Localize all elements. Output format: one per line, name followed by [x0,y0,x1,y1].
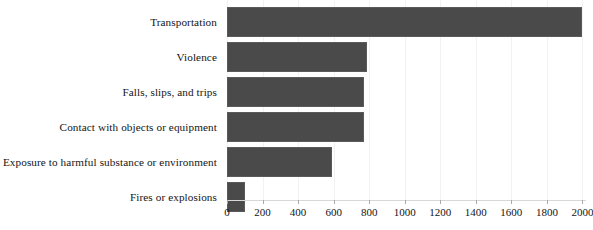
x-axis-tick-label: 2000 [571,206,593,219]
x-axis: 0200400600800100012001400160018002000 [227,200,586,230]
bar [227,112,364,142]
x-axis-tick-label: 1800 [536,206,558,219]
x-axis-tick-label: 0 [224,206,230,219]
x-axis-tick [440,200,441,204]
bar [227,7,582,37]
x-axis-tick [405,200,406,204]
x-axis-tick-label: 400 [290,206,307,219]
category-label: Contact with objects or equipment [60,121,217,133]
x-axis-line [227,200,586,201]
category-label: Violence [176,51,217,63]
x-axis-tick [547,200,548,204]
x-axis-tick [476,200,477,204]
bar [227,77,364,107]
plot-area [227,0,586,200]
category-label: Falls, slips, and trips [122,86,217,98]
x-axis-tick [227,200,228,204]
x-axis-tick [334,200,335,204]
gridline [582,0,583,200]
x-axis-tick-label: 1000 [394,206,416,219]
x-axis-tick-label: 600 [325,206,342,219]
bar [227,147,332,177]
x-axis-tick-label: 800 [361,206,378,219]
category-label: Exposure to harmful substance or environ… [3,156,217,168]
x-axis-tick [298,200,299,204]
category-label: Fires or explosions [130,191,217,203]
x-axis-tick-label: 200 [254,206,271,219]
x-axis-tick [369,200,370,204]
x-axis-tick-label: 1600 [500,206,522,219]
x-axis-tick [511,200,512,204]
x-axis-tick-label: 1400 [465,206,487,219]
x-axis-tick [263,200,264,204]
category-axis-labels: TransportationViolenceFalls, slips, and … [0,0,222,200]
bar [227,42,367,72]
x-axis-tick-label: 1200 [429,206,451,219]
category-label: Transportation [150,16,217,28]
x-axis-tick [582,200,583,204]
